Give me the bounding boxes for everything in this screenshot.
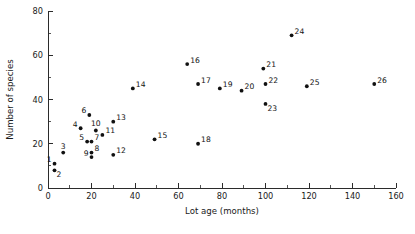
point-label-13: 13 xyxy=(116,113,126,122)
point-marker-19 xyxy=(218,87,222,91)
point-marker-13 xyxy=(111,120,115,124)
point-label-19: 19 xyxy=(223,80,233,89)
point-label-25: 25 xyxy=(310,78,320,87)
point-label-5: 5 xyxy=(79,133,84,142)
point-label-16: 16 xyxy=(190,56,200,65)
data-point-1: 1 xyxy=(47,155,57,165)
x-tick-label-0: 0 xyxy=(45,191,50,201)
axes xyxy=(48,11,396,188)
data-point-11: 11 xyxy=(100,126,115,136)
point-marker-18 xyxy=(196,142,200,146)
data-point-26: 26 xyxy=(372,76,387,86)
point-label-7: 7 xyxy=(95,133,100,142)
data-point-18: 18 xyxy=(196,135,211,145)
tick-labels: 020406080100120140160020406080 xyxy=(33,6,404,201)
point-label-26: 26 xyxy=(377,76,387,85)
point-marker-26 xyxy=(372,82,376,86)
point-label-23: 23 xyxy=(268,104,278,113)
point-marker-15 xyxy=(153,137,157,141)
data-points: 1234567891011121314151617181920212223242… xyxy=(47,27,387,179)
point-marker-3 xyxy=(61,151,65,155)
point-marker-1 xyxy=(53,162,57,166)
data-point-2: 2 xyxy=(53,168,62,179)
data-point-7: 7 xyxy=(90,133,100,143)
point-marker-24 xyxy=(290,33,294,37)
data-point-3: 3 xyxy=(61,142,66,155)
point-marker-10 xyxy=(94,129,98,133)
point-label-22: 22 xyxy=(269,76,279,85)
x-axis-title: Lot age (months) xyxy=(185,206,259,216)
data-point-8: 8 xyxy=(90,144,100,154)
point-label-17: 17 xyxy=(201,76,211,85)
data-point-24: 24 xyxy=(290,27,305,37)
point-label-4: 4 xyxy=(73,120,78,129)
point-marker-14 xyxy=(131,87,135,91)
y-tick-label-60: 60 xyxy=(33,50,43,60)
point-label-21: 21 xyxy=(266,60,276,69)
data-point-13: 13 xyxy=(111,113,126,123)
y-tick-label-40: 40 xyxy=(33,95,43,105)
data-point-16: 16 xyxy=(185,56,200,66)
data-point-25: 25 xyxy=(305,78,320,88)
point-label-10: 10 xyxy=(91,119,101,128)
x-tick-label-20: 20 xyxy=(86,191,96,201)
x-tick-label-100: 100 xyxy=(258,191,274,201)
x-tick-label-140: 140 xyxy=(345,191,361,201)
point-marker-9 xyxy=(90,155,94,159)
data-point-22: 22 xyxy=(264,76,279,86)
point-label-2: 2 xyxy=(57,170,62,179)
point-marker-11 xyxy=(100,133,104,137)
point-marker-4 xyxy=(79,126,83,130)
data-point-20: 20 xyxy=(240,82,255,92)
point-label-3: 3 xyxy=(61,142,66,151)
point-marker-7 xyxy=(90,140,94,144)
data-point-5: 5 xyxy=(79,133,89,143)
point-marker-5 xyxy=(85,140,89,144)
data-point-6: 6 xyxy=(81,106,91,116)
point-marker-16 xyxy=(185,62,189,66)
data-point-21: 21 xyxy=(261,60,276,70)
point-marker-17 xyxy=(196,82,200,86)
data-point-17: 17 xyxy=(196,76,211,86)
point-marker-8 xyxy=(90,151,94,155)
point-marker-21 xyxy=(261,67,265,71)
point-label-11: 11 xyxy=(105,126,115,135)
data-point-4: 4 xyxy=(73,120,83,130)
point-marker-6 xyxy=(87,113,91,117)
point-marker-25 xyxy=(305,84,309,88)
point-label-12: 12 xyxy=(116,146,126,155)
data-point-10: 10 xyxy=(91,119,101,132)
point-label-20: 20 xyxy=(245,82,255,91)
point-marker-12 xyxy=(111,153,115,157)
point-label-1: 1 xyxy=(47,155,52,164)
point-marker-20 xyxy=(240,89,244,93)
y-tick-label-0: 0 xyxy=(38,183,43,193)
data-point-12: 12 xyxy=(111,146,126,156)
data-point-19: 19 xyxy=(218,80,233,90)
data-point-15: 15 xyxy=(153,131,168,141)
y-axis-title: Number of species xyxy=(5,59,15,140)
x-tick-label-40: 40 xyxy=(130,191,140,201)
x-tick-label-80: 80 xyxy=(217,191,227,201)
point-marker-22 xyxy=(264,82,268,86)
point-label-14: 14 xyxy=(136,80,146,89)
point-label-9: 9 xyxy=(84,149,89,158)
point-label-24: 24 xyxy=(295,27,305,36)
point-label-15: 15 xyxy=(158,131,168,140)
x-tick-label-160: 160 xyxy=(388,191,404,201)
point-label-18: 18 xyxy=(201,135,211,144)
tick-marks xyxy=(48,11,396,188)
point-label-8: 8 xyxy=(95,144,100,153)
x-tick-label-60: 60 xyxy=(173,191,183,201)
point-label-6: 6 xyxy=(81,106,86,115)
scatter-plot-figure: 020406080100120140160020406080 123456789… xyxy=(0,0,415,234)
plot-canvas: 020406080100120140160020406080 123456789… xyxy=(0,0,415,234)
y-tick-label-80: 80 xyxy=(33,6,43,16)
data-point-23: 23 xyxy=(264,102,278,113)
data-point-14: 14 xyxy=(131,80,146,90)
y-tick-label-20: 20 xyxy=(33,139,43,149)
x-tick-label-120: 120 xyxy=(301,191,317,201)
